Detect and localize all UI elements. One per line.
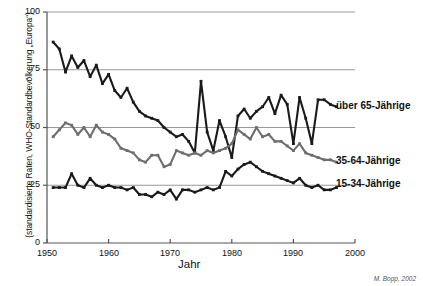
- series-0-marker: [224, 135, 227, 138]
- series-1-marker: [267, 133, 270, 136]
- series-2-marker: [329, 188, 332, 191]
- series-0-marker: [261, 105, 264, 108]
- series-0-marker: [132, 101, 135, 104]
- series-1-marker: [292, 149, 295, 152]
- x-tick-label-1960: 1960: [89, 248, 129, 258]
- series-1-marker: [70, 124, 73, 127]
- series-2-marker: [274, 175, 277, 178]
- series-0-marker: [175, 135, 178, 138]
- series-2-marker: [255, 165, 258, 168]
- series-0-marker: [230, 156, 233, 159]
- series-2-marker: [95, 184, 98, 187]
- series-1-marker: [187, 154, 190, 157]
- series-0-marker: [138, 110, 141, 113]
- series-1-marker: [237, 128, 240, 131]
- series-1-marker: [76, 133, 79, 136]
- series-1-marker: [200, 154, 203, 157]
- series-2-marker: [175, 198, 178, 201]
- series-1-marker: [317, 156, 320, 159]
- series-0-marker: [120, 96, 123, 99]
- series-1-marker: [206, 149, 209, 152]
- series-1-marker: [261, 135, 264, 138]
- series-1-marker: [150, 154, 153, 157]
- series-0-marker: [64, 71, 67, 74]
- credit-text: M. Bopp, 2002: [374, 275, 416, 282]
- series-2-marker: [83, 186, 86, 189]
- series-0-marker: [83, 59, 86, 62]
- series-2-marker: [76, 184, 79, 187]
- series-0-marker: [181, 133, 184, 136]
- series-0-marker: [107, 73, 110, 76]
- series-0-marker: [206, 131, 209, 134]
- series-0-marker: [317, 98, 320, 101]
- series-2-marker: [218, 186, 221, 189]
- series-0-marker: [144, 115, 147, 118]
- series-0-marker: [286, 103, 289, 106]
- series-2-marker: [70, 172, 73, 175]
- series-1-marker: [323, 158, 326, 161]
- series-2-marker: [224, 170, 227, 173]
- series-2-marker: [323, 188, 326, 191]
- series-2-marker: [181, 188, 184, 191]
- legend-label-15-34: 15-34-Jährige: [336, 178, 400, 189]
- x-tick-label-1990: 1990: [273, 248, 313, 258]
- series-2-marker: [243, 163, 246, 166]
- series-2-marker: [193, 191, 196, 194]
- series-2-marker: [58, 186, 61, 189]
- series-1-marker: [113, 138, 116, 141]
- series-0-marker: [255, 110, 258, 113]
- y-tick-label-75: 75: [14, 63, 40, 73]
- series-0-marker: [292, 142, 295, 145]
- y-tick-label-0: 0: [14, 237, 40, 247]
- series-0-marker: [310, 142, 313, 145]
- series-1-marker: [304, 152, 307, 155]
- series-2-marker: [64, 186, 67, 189]
- series-2-marker: [138, 193, 141, 196]
- series-2-marker: [212, 188, 215, 191]
- series-0-marker: [163, 126, 166, 129]
- series-0-marker: [58, 48, 61, 51]
- series-2-marker: [261, 170, 264, 173]
- series-1-marker: [156, 154, 159, 157]
- series-1-marker: [169, 163, 172, 166]
- series-1-marker: [89, 135, 92, 138]
- series-0-marker: [52, 41, 55, 44]
- x-axis-title: Jahr: [178, 258, 200, 270]
- series-1-marker: [83, 126, 86, 129]
- legend-label-35-64: 35-64-Jährige: [336, 155, 400, 166]
- series-0-marker: [187, 140, 190, 143]
- series-0-marker: [101, 82, 104, 85]
- series-0-marker: [70, 54, 73, 57]
- series-0-marker: [249, 117, 252, 120]
- series-1-marker: [181, 152, 184, 155]
- series-2-marker: [200, 188, 203, 191]
- series-1-marker: [230, 142, 233, 145]
- series-2-marker: [144, 193, 147, 196]
- series-0-marker: [323, 98, 326, 101]
- series-line-0: [53, 42, 336, 158]
- series-2-marker: [89, 177, 92, 180]
- series-1-marker: [218, 149, 221, 152]
- series-2-marker: [237, 168, 240, 171]
- series-2-marker: [126, 188, 129, 191]
- series-0-marker: [329, 103, 332, 106]
- series-1-marker: [107, 133, 110, 136]
- plot-area: [0, 0, 423, 286]
- series-1-marker: [249, 138, 252, 141]
- series-1-marker: [255, 126, 258, 129]
- series-0-marker: [237, 115, 240, 118]
- series-2-marker: [52, 186, 55, 189]
- series-0-marker: [298, 96, 301, 99]
- series-2-marker: [132, 186, 135, 189]
- series-2-marker: [150, 195, 153, 198]
- y-tick-label-100: 100: [14, 6, 40, 16]
- series-0-marker: [156, 119, 159, 122]
- series-2-marker: [169, 188, 172, 191]
- series-1-marker: [274, 140, 277, 143]
- series-1-marker: [58, 128, 61, 131]
- gridlines: [47, 12, 355, 185]
- series-1-marker: [175, 149, 178, 152]
- series-2-marker: [310, 186, 313, 189]
- series-1-marker: [243, 133, 246, 136]
- series-0-marker: [200, 80, 203, 83]
